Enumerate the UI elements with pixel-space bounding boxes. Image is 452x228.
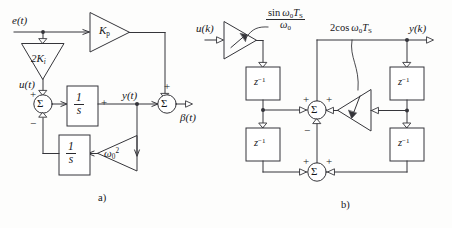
label-uk-input: u(k): [196, 22, 214, 34]
block-label-delay-left-upper: z−1: [254, 76, 265, 87]
sum-b-upper-symbol: Σ: [311, 103, 317, 115]
sum-a-right-sign-top: +: [164, 80, 170, 92]
label-yk-output: y(k): [409, 22, 426, 34]
block-label-delay-right-lower: z−1: [398, 137, 409, 148]
figure-root: e(t) 2Ki Kp u(t) y(t) β(t) 1s 1s ω02 + +…: [0, 0, 452, 228]
sum-b-upper-sign-right: +: [326, 93, 332, 105]
sum-b-lower-sign-left: +: [303, 155, 309, 167]
label-gain-omega0sq: ω02: [104, 147, 119, 161]
sum-b-lower-symbol: Σ: [311, 165, 317, 177]
diagram-vector-layer: [0, 0, 452, 228]
sum-b-upper-sign-left: +: [303, 93, 309, 105]
sum-b-lower-sign-right: +: [326, 155, 332, 167]
block-label-delay-right-upper: z−1: [398, 76, 409, 87]
tri-gain-sin: [224, 22, 256, 59]
sum-a-right-sign-left: +: [101, 96, 107, 108]
block-label-delay-left-lower: z−1: [254, 137, 265, 148]
sum-a-left-sign-bottom: −: [30, 117, 36, 129]
sum-a-right-symbol: Σ: [161, 97, 167, 109]
sum-a-left-sign-top: +: [30, 88, 36, 100]
label-gain-kp: Kp: [99, 24, 110, 38]
caption-b: b): [341, 199, 350, 210]
label-beta-output: β(t): [180, 111, 196, 123]
label-y-signal: y(t): [122, 89, 137, 101]
label-gain-2ki: 2Ki: [31, 52, 46, 66]
block-label-int-forward: 1s: [74, 92, 84, 117]
annotation-cos-gain: 2cos ω0TS: [330, 22, 372, 34]
block-label-int-feedback: 1s: [66, 141, 76, 166]
sum-a-left-symbol: Σ: [37, 97, 43, 109]
caption-a: a): [98, 192, 106, 203]
sum-b-upper-sign-bottom: −: [304, 124, 310, 136]
label-e-input: e(t): [12, 14, 27, 26]
annotation-sin-gain: sin ω0TS ω0: [266, 8, 305, 31]
node-right-mid: [405, 109, 409, 113]
